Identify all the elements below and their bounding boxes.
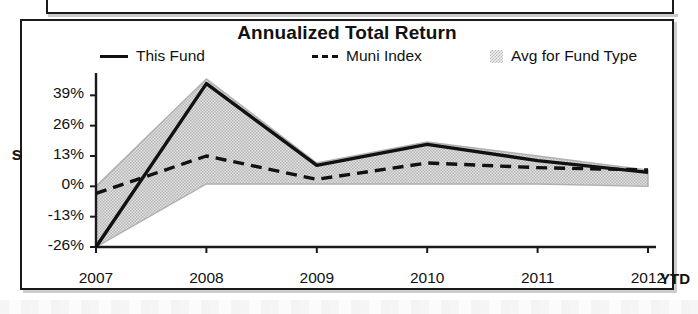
x-axis-tick-2011: 2011: [498, 269, 578, 287]
panel-above-border: [46, 0, 674, 14]
x-axis-tick-2010: 2010: [387, 269, 467, 287]
x-axis-tick-2007: 2007: [56, 269, 136, 287]
plot-svg: [22, 21, 676, 292]
y-axis-tick-neg26pct: -26%: [22, 236, 84, 254]
y-axis-tick-13pct: 13%: [22, 145, 84, 163]
y-axis-tick-26pct: 26%: [22, 115, 84, 133]
y-axis-tick-neg13pct: -13%: [22, 206, 84, 224]
left-margin-text-fragment: s: [0, 140, 22, 168]
x-axis-tick-2009: 2009: [277, 269, 357, 287]
scan-noise-strip: [0, 300, 698, 314]
y-axis-tick-0pct: 0%: [22, 175, 84, 193]
panel-above-shadow: [48, 14, 678, 17]
x-axis-tick-2008: 2008: [166, 269, 246, 287]
ytd-label: YTD: [660, 270, 690, 287]
y-axis-tick-39pct: 39%: [22, 84, 84, 102]
plot-area: 39%26%13%0%-13%-26% 20072008200920102011…: [22, 21, 676, 292]
annualized-total-return-chart: Annualized Total Return This Fund Muni I…: [20, 19, 674, 290]
